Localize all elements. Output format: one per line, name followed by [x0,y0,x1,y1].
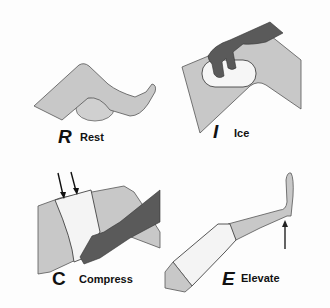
panel-rest: R Rest [34,64,156,147]
arrow-down-icon [58,173,63,195]
panel-elevate: E Elevate [165,173,293,292]
label-word-compress: Compress [79,273,133,285]
label-letter-r: R [58,126,72,147]
rice-diagram: R Rest I Ice C Compress E Elevate [0,0,330,308]
arrow-head [282,220,288,227]
label-letter-e: E [222,268,236,289]
label-word-elevate: Elevate [241,272,280,284]
label-word-ice: Ice [234,127,249,139]
label-letter-c: C [52,268,66,289]
label-letter-i: I [213,121,219,142]
leg-elevated-icon [228,173,293,240]
label-word-rest: Rest [80,131,104,143]
panel-ice: I Ice [182,22,301,142]
panel-compress: C Compress [38,172,160,289]
